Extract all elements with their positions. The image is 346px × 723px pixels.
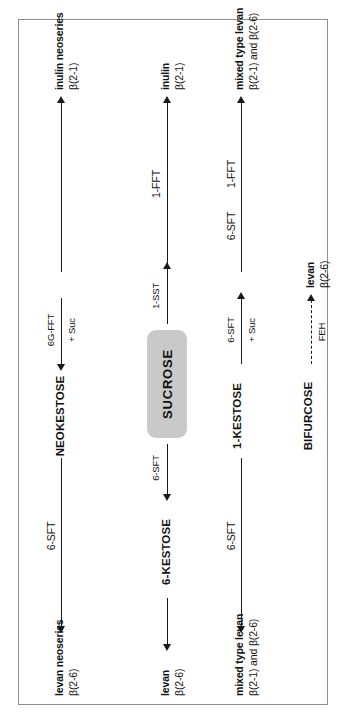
intermediate-6-kestose: 6-KESTOSE — [160, 519, 174, 585]
product-levan-feh: levan — [304, 261, 316, 287]
intermediate-neokestose: NEOKESTOSE — [54, 375, 68, 456]
arrow-line-bifurcose-to-mixed-levan-right — [241, 102, 242, 272]
product-levan-neoseries: levan neoseries — [53, 619, 65, 696]
product-inulin-neoseries: inulin neoseries — [53, 12, 65, 90]
linkage-inulin: β(2-1) — [173, 62, 185, 89]
product-levan: levan — [159, 669, 171, 695]
enzyme-label-6sft-bifurcose: 6-SFT — [225, 317, 236, 343]
linkage-levan-neoseries: β(2-6) — [67, 668, 79, 695]
diagram-canvas: 6-SFT levan neoseries β(2-6) NEOKESTOSE … — [19, 20, 327, 704]
arrow-line-sucrose-to-1kestose — [167, 268, 168, 324]
linkage-mixed-levan-right: β(2-1) and β(2-6) — [247, 12, 259, 89]
arrow-head-inulin-neoseries — [57, 96, 65, 103]
arrow-head-feh-levan — [307, 294, 315, 301]
substrate-sucrose-box: SUCROSE — [147, 330, 187, 438]
product-mixed-levan-left: mixed type levan — [233, 613, 245, 695]
enzyme-label-1-fft-inulin: 1-FFT — [150, 170, 162, 198]
cosubstrate-label-neokestose: + Suc — [66, 318, 77, 342]
arrow-line-sucrose-to-6kestose — [167, 444, 168, 494]
arrow-head-mixed-levan-right — [237, 96, 245, 103]
substrate-sucrose-label: SUCROSE — [160, 349, 175, 419]
product-inulin: inulin — [159, 62, 171, 89]
enzyme-label-6sft-feh-upper: 6-SFT — [225, 211, 237, 239]
arrow-line-feh-bifurcose-to-levan — [311, 300, 312, 364]
product-mixed-levan-right: mixed type levan — [233, 7, 245, 89]
intermediate-bifurcose: BIFURCOSE — [302, 381, 316, 450]
figure-page: 6-SFT levan neoseries β(2-6) NEOKESTOSE … — [0, 0, 346, 723]
arrow-head-bifurcose — [237, 292, 245, 299]
arrow-line-1kestose-to-neokestose — [61, 298, 62, 364]
arrow-head-inulin — [163, 96, 171, 103]
linkage-levan: β(2-6) — [173, 668, 185, 695]
linkage-mixed-levan-left: β(2-1) and β(2-6) — [247, 618, 259, 695]
arrow-line-bifurcose-to-mixed-levan-left — [241, 458, 242, 626]
linkage-levan-feh: β(2-6) — [318, 260, 330, 287]
arrow-line-6kestose-to-levan — [167, 598, 168, 644]
arrow-line-neokestose-to-levan-neoseries — [61, 458, 62, 626]
enzyme-label-1fft-feh-lower: 1-FFT — [225, 160, 237, 188]
arrow-line-1kestose-to-bifurcose — [241, 298, 242, 364]
arrow-line-neokestose-to-inulin-neoseries — [61, 102, 62, 272]
enzyme-label-neokestose-left: 6-SFT — [45, 521, 57, 549]
enzyme-label-1-sst: 1-SST — [150, 282, 161, 308]
enzyme-label-6sft-6kestose: 6-SFT — [150, 455, 161, 481]
enzyme-label-6g-fft: 6G-FFT — [45, 313, 56, 345]
enzyme-label-feh: FEH — [316, 322, 327, 341]
arrow-head-neokestose — [57, 364, 65, 371]
cosubstrate-label-bifurcose: + Suc — [246, 318, 257, 342]
linkage-inulin-neoseries: β(2-1) — [67, 62, 79, 89]
arrow-head-6-kestose — [163, 494, 171, 501]
enzyme-label-6sft-mixed-left: 6-SFT — [225, 521, 237, 549]
intermediate-1-kestose: 1-KESTOSE — [231, 383, 245, 449]
diagram-frame: 6-SFT levan neoseries β(2-6) NEOKESTOSE … — [18, 19, 328, 705]
arrow-head-levan — [163, 644, 171, 651]
arrow-line-1kestose-to-inulin — [167, 102, 168, 272]
